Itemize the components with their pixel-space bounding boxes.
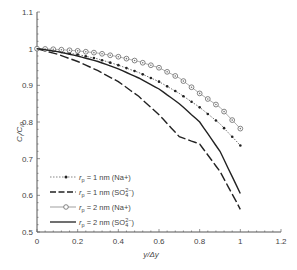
legend-item: rp = 1 nm (SO42−) bbox=[50, 187, 135, 198]
legend-item: rp = 1 nm (Na+) bbox=[50, 173, 131, 183]
series-group bbox=[35, 46, 243, 209]
x-tick-label: 1.2 bbox=[275, 237, 287, 246]
legend-label: rp = 1 nm (SO42−) bbox=[79, 187, 135, 198]
x-tick-label: 0 bbox=[35, 237, 40, 246]
y-tick-label: 0.6 bbox=[22, 191, 34, 200]
legend-item: rp = 2 nm (Na+) bbox=[50, 203, 131, 213]
legend: rp = 1 nm (Na+)rp = 1 nm (SO42−)rp = 2 n… bbox=[50, 173, 135, 228]
series-2 bbox=[37, 49, 240, 210]
y-tick-label: 1 bbox=[29, 45, 34, 54]
x-tick-label: 0.2 bbox=[72, 237, 84, 246]
x-tick-label: 0.4 bbox=[113, 237, 125, 246]
y-tick-label: 0.9 bbox=[22, 81, 34, 90]
series-3 bbox=[35, 46, 243, 131]
y-tick-label: 1.1 bbox=[22, 8, 34, 17]
axes bbox=[37, 12, 281, 232]
series-4 bbox=[37, 49, 240, 194]
y-axis-label: Ci/Ci0 bbox=[15, 121, 25, 141]
x-tick-label: 1 bbox=[238, 237, 243, 246]
y-tick-label: 0.5 bbox=[22, 228, 34, 237]
legend-item: rp = 2 nm (SO42−) bbox=[50, 217, 135, 228]
legend-label: rp = 1 nm (Na+) bbox=[79, 173, 131, 183]
x-tick-label: 0.6 bbox=[153, 237, 165, 246]
line-chart: 00.20.40.60.811.20.50.60.70.80.911.1y/Δy… bbox=[0, 0, 297, 270]
legend-label: rp = 2 nm (SO42−) bbox=[79, 217, 135, 228]
x-tick-label: 0.8 bbox=[194, 237, 206, 246]
x-axis-label: y/Δy bbox=[142, 250, 160, 259]
legend-label: rp = 2 nm (Na+) bbox=[79, 203, 131, 213]
y-tick-label: 0.7 bbox=[22, 155, 34, 164]
